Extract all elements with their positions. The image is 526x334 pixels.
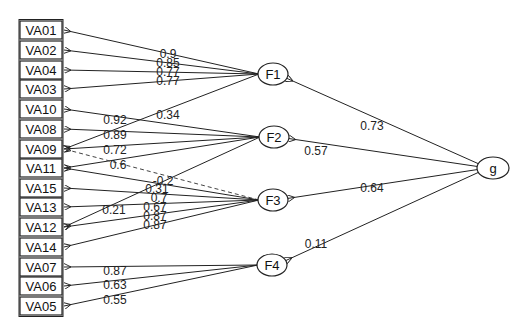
- observed-label: VA07: [26, 260, 57, 275]
- observed-label: VA09: [26, 142, 57, 157]
- loading-value: 0.63: [103, 278, 127, 292]
- observed-label: VA14: [26, 240, 57, 255]
- loading-value: 0.34: [156, 108, 180, 122]
- observed-label: VA08: [26, 122, 57, 137]
- observed-label: VA06: [26, 279, 57, 294]
- observed-label: VA02: [26, 43, 57, 58]
- observed-variables: VA01VA02VA04VA03VA10VA08VA09VA11VA15VA13…: [19, 20, 63, 317]
- factor-label: F3: [265, 193, 280, 208]
- observed-label: VA12: [26, 220, 57, 235]
- factor-label: g: [489, 161, 496, 176]
- loading-edge-f2-va09: [64, 137, 260, 149]
- loading-value: 0.64: [360, 181, 384, 195]
- latent-factor-f1: F1: [258, 63, 288, 85]
- factor-label: F2: [266, 130, 281, 145]
- observed-label: VA10: [26, 102, 57, 117]
- observed-label: VA01: [26, 23, 57, 38]
- observed-label: VA05: [26, 299, 57, 314]
- observed-variable-va12: VA12: [20, 218, 62, 236]
- loading-value: 0.6: [110, 158, 127, 172]
- loading-edge-f4-va06: [64, 265, 258, 286]
- latent-factor-f4: F4: [257, 254, 287, 276]
- latent-factor-f3: F3: [258, 189, 288, 211]
- loading-value: 0.92: [103, 113, 127, 127]
- loading-value: 0.55: [103, 293, 127, 307]
- loading-value: 0.77: [156, 74, 180, 88]
- observed-variable-va02: VA02: [20, 41, 62, 59]
- loading-value: 0.87: [143, 218, 167, 232]
- observed-variable-va13: VA13: [20, 198, 62, 216]
- loading-value: 0.72: [103, 143, 127, 157]
- observed-label: VA11: [26, 161, 56, 176]
- observed-variable-va09: VA09: [20, 140, 62, 158]
- observed-label: VA13: [26, 200, 57, 215]
- observed-variable-va07: VA07: [20, 258, 62, 276]
- latent-factors: F1F2F3F4g: [257, 63, 509, 276]
- latent-factor-g: g: [477, 157, 509, 179]
- factor-label: F1: [265, 67, 280, 82]
- observed-variable-va05: VA05: [20, 297, 62, 315]
- observed-label: VA04: [26, 63, 57, 78]
- observed-label: VA15: [26, 181, 57, 196]
- observed-variable-va08: VA08: [20, 120, 62, 138]
- observed-variable-va03: VA03: [20, 80, 62, 98]
- factor-label: F4: [264, 258, 279, 273]
- latent-factor-f2: F2: [259, 126, 289, 148]
- loading-value: 0.11: [305, 237, 328, 251]
- observed-variable-va01: VA01: [20, 21, 62, 39]
- observed-variable-va15: VA15: [20, 179, 62, 197]
- loading-value: 0.87: [103, 264, 127, 278]
- loading-value: 0.57: [304, 144, 328, 158]
- path-diagram: 0.90.850.770.770.340.920.890.720.60.21-0…: [0, 0, 526, 334]
- observed-label: VA03: [26, 82, 57, 97]
- loading-value: 0.21: [102, 203, 126, 217]
- observed-variable-va11: VA11: [20, 159, 62, 177]
- loading-edge-f4-va05: [64, 265, 258, 306]
- loading-value: 0.73: [360, 119, 384, 133]
- loading-edge-f4-va07: [64, 265, 258, 267]
- observed-variable-va04: VA04: [20, 61, 62, 79]
- observed-variable-va06: VA06: [20, 277, 62, 295]
- loading-value: 0.89: [103, 128, 127, 142]
- observed-variable-va14: VA14: [20, 238, 62, 256]
- observed-variable-va10: VA10: [20, 100, 62, 118]
- loading-edge-f2-va11: [64, 137, 260, 168]
